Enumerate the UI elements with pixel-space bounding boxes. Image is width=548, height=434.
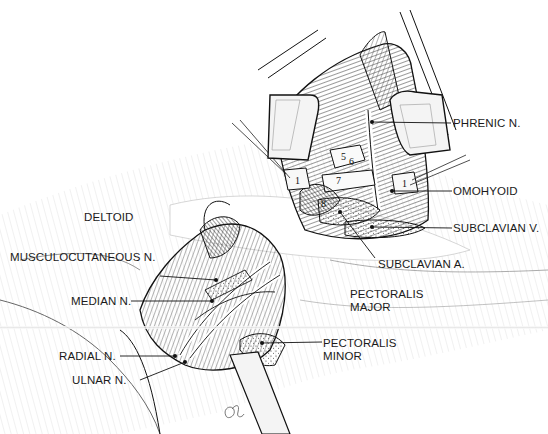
label-radial-nerve: RADIAL N.	[59, 350, 116, 362]
marker-6: 6	[349, 156, 354, 167]
label-pectoralis-major-line1: PECTORALIS	[350, 288, 424, 300]
label-deltoid: DELTOID	[84, 211, 133, 223]
label-pectoralis-minor-line2: MINOR	[323, 350, 362, 362]
label-pectoralis-minor-line1: PECTORALIS	[323, 337, 397, 349]
label-phrenic-nerve: PHRENIC N.	[453, 117, 520, 129]
label-musculocutaneous-nerve: MUSCULOCUTANEOUS N.	[10, 251, 155, 263]
label-ulnar-nerve: ULNAR N.	[72, 374, 126, 386]
anatomical-illustration: 1 1 5 6 7 8 PHRENIC N. OMOHYOID SUBCLAVI…	[0, 0, 548, 434]
illustration-drawing: 1 1 5 6 7 8	[0, 0, 548, 434]
marker-7: 7	[336, 175, 341, 186]
label-subclavian-artery: SUBCLAVIAN A.	[378, 258, 465, 270]
label-subclavian-vein: SUBCLAVIAN V.	[453, 222, 539, 234]
marker-5: 5	[341, 151, 346, 162]
marker-1-left: 1	[295, 175, 300, 186]
label-pectoralis-major-line2: MAJOR	[350, 301, 391, 313]
marker-1-right: 1	[402, 178, 407, 189]
scan-artifact-line	[0, 326, 548, 329]
label-omohyoid: OMOHYOID	[453, 185, 518, 197]
label-median-nerve: MEDIAN N.	[71, 295, 131, 307]
marker-8: 8	[321, 198, 326, 209]
